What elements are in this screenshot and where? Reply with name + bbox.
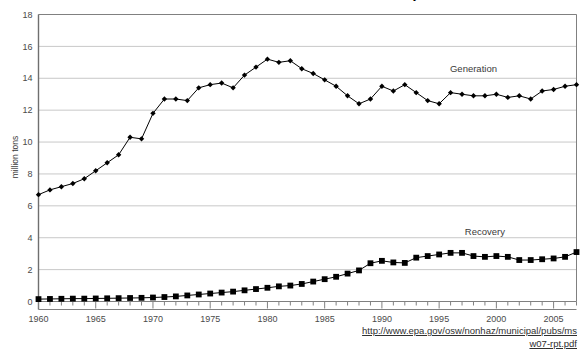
data-point bbox=[184, 293, 190, 299]
data-point bbox=[104, 295, 110, 301]
data-point bbox=[196, 292, 202, 298]
x-tick-label: 1965 bbox=[86, 314, 106, 324]
data-point bbox=[242, 287, 248, 293]
data-point bbox=[70, 296, 76, 302]
data-point bbox=[311, 71, 316, 76]
data-point bbox=[219, 80, 224, 85]
data-point bbox=[253, 286, 259, 292]
source-url-line1[interactable]: http://www.epa.gov/osw/nonhaz/municipal/… bbox=[362, 325, 577, 336]
y-tick-label: 8 bbox=[27, 169, 32, 179]
x-tick-label: 1975 bbox=[200, 314, 220, 324]
data-point bbox=[562, 84, 567, 89]
data-point bbox=[505, 95, 510, 100]
data-point bbox=[471, 93, 476, 98]
data-point bbox=[413, 255, 419, 261]
chart-container: Materials Generation and Recovery millio… bbox=[0, 0, 587, 356]
data-point bbox=[551, 256, 557, 262]
y-tick-label: 6 bbox=[27, 201, 32, 211]
data-point bbox=[528, 257, 534, 263]
data-point bbox=[517, 93, 522, 98]
data-point bbox=[230, 289, 236, 295]
data-point bbox=[81, 296, 87, 302]
data-point bbox=[36, 192, 41, 197]
data-point bbox=[471, 253, 477, 259]
data-point bbox=[448, 250, 454, 256]
data-point bbox=[139, 136, 144, 141]
data-point bbox=[287, 283, 293, 289]
data-point bbox=[516, 257, 522, 263]
y-tick-label: 18 bbox=[22, 10, 32, 20]
data-point bbox=[116, 295, 122, 301]
plot-border bbox=[39, 15, 577, 310]
data-point bbox=[494, 92, 499, 97]
x-tick-label: 1970 bbox=[143, 314, 163, 324]
data-point bbox=[93, 296, 99, 302]
data-point bbox=[482, 254, 488, 260]
data-point bbox=[173, 293, 179, 299]
data-point bbox=[150, 295, 156, 301]
data-point bbox=[299, 281, 305, 287]
x-tick-label: 2000 bbox=[486, 314, 506, 324]
series-annotation: Generation bbox=[450, 63, 497, 74]
data-point bbox=[402, 260, 408, 266]
data-point bbox=[47, 296, 53, 302]
data-point bbox=[208, 82, 213, 87]
x-tick-label: 1960 bbox=[28, 314, 48, 324]
data-point bbox=[59, 184, 64, 189]
x-axis-tick-labels: 1960196519701975198019851990199520002005 bbox=[28, 314, 563, 324]
data-point bbox=[276, 283, 282, 289]
y-tick-label: 2 bbox=[27, 265, 32, 275]
data-point bbox=[391, 88, 396, 93]
data-point bbox=[322, 276, 328, 282]
y-tick-label: 12 bbox=[22, 105, 32, 115]
x-tick-label: 1980 bbox=[257, 314, 277, 324]
y-tick-label: 16 bbox=[22, 42, 32, 52]
data-point bbox=[127, 135, 132, 140]
data-point bbox=[482, 93, 487, 98]
source-url-note[interactable]: http://www.epa.gov/osw/nonhaz/municipal/… bbox=[317, 324, 577, 350]
data-point bbox=[207, 291, 213, 297]
x-tick-label: 1990 bbox=[372, 314, 392, 324]
series-recovery bbox=[36, 249, 580, 302]
series-annotation: Recovery bbox=[465, 226, 505, 237]
data-point bbox=[47, 187, 52, 192]
series-annotations: GenerationRecovery bbox=[450, 63, 505, 237]
y-tick-label: 10 bbox=[22, 137, 32, 147]
data-point bbox=[139, 295, 145, 301]
data-point bbox=[425, 253, 431, 259]
data-point bbox=[390, 260, 396, 266]
data-point bbox=[356, 268, 362, 274]
y-tick-label: 4 bbox=[27, 233, 32, 243]
data-point bbox=[173, 96, 178, 101]
x-tick-label: 1985 bbox=[315, 314, 335, 324]
data-point bbox=[574, 249, 580, 255]
data-point bbox=[562, 254, 568, 260]
data-point bbox=[333, 274, 339, 280]
data-point bbox=[265, 285, 271, 291]
data-point bbox=[70, 181, 75, 186]
data-point bbox=[368, 260, 374, 266]
x-axis-ticks bbox=[39, 302, 577, 310]
data-point bbox=[276, 60, 281, 65]
x-tick-label: 1995 bbox=[429, 314, 449, 324]
data-point bbox=[551, 87, 556, 92]
data-point bbox=[58, 296, 64, 302]
y-tick-label: 0 bbox=[27, 297, 32, 307]
line-chart: 024681012141618 196019651970197519801985… bbox=[0, 0, 587, 356]
data-point bbox=[127, 295, 133, 301]
data-point bbox=[574, 82, 579, 87]
data-point bbox=[162, 294, 168, 300]
data-point bbox=[219, 290, 225, 296]
data-point bbox=[36, 296, 42, 302]
data-point bbox=[505, 254, 511, 260]
data-point bbox=[436, 252, 442, 258]
y-tick-label: 14 bbox=[22, 73, 32, 83]
data-point bbox=[379, 258, 385, 264]
y-axis-tick-labels: 024681012141618 bbox=[22, 10, 32, 307]
series-generation bbox=[36, 56, 579, 197]
data-point bbox=[459, 250, 465, 256]
data-point bbox=[493, 253, 499, 259]
data-point bbox=[459, 92, 464, 97]
source-url-line2[interactable]: w07-rpt.pdf bbox=[529, 338, 577, 349]
data-point bbox=[345, 271, 351, 277]
